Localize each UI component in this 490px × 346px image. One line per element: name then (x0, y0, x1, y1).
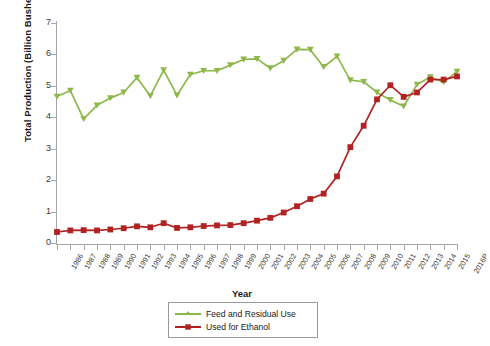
data-point-marker (374, 90, 381, 96)
x-tick-label: 1993 (163, 252, 179, 271)
legend-label-ethanol: Used for Ethanol (206, 322, 270, 332)
y-tick-label: 2 (25, 174, 51, 184)
data-point-marker (387, 82, 393, 88)
x-tick-label: 2016P (472, 252, 490, 275)
data-point-marker (454, 69, 461, 75)
x-tick-label: 1998 (229, 252, 245, 271)
data-point-marker (334, 173, 340, 179)
x-tick-label: 2011 (402, 252, 418, 270)
data-point-marker (280, 58, 287, 64)
x-tick-label: 2007 (349, 252, 365, 271)
x-tick-label: 2008 (363, 252, 379, 271)
x-tick-label: 2010 (389, 252, 405, 271)
x-tick (230, 245, 231, 250)
data-point-marker (174, 225, 180, 231)
data-point-marker (294, 47, 301, 53)
y-tick (51, 117, 56, 118)
series-ethanol (54, 74, 460, 235)
data-point-marker (67, 88, 74, 94)
x-tick-label: 1988 (96, 252, 112, 271)
x-tick (404, 245, 405, 250)
data-point-marker (321, 191, 327, 197)
x-tick-label: 2006 (336, 252, 352, 271)
x-tick-label: 1986 (69, 252, 85, 271)
data-point-marker (174, 92, 181, 98)
data-point-marker (307, 196, 313, 202)
data-point-marker (254, 56, 261, 62)
x-tick-label: 1994 (176, 252, 192, 271)
x-axis-title: Year (0, 288, 484, 299)
data-point-marker (81, 227, 87, 233)
x-tick (457, 245, 458, 250)
series-feed (54, 47, 461, 123)
data-point-marker (187, 224, 193, 230)
y-tick (51, 23, 56, 24)
data-point-marker (187, 72, 194, 78)
data-point-marker (107, 95, 114, 101)
x-tick-label: 2002 (283, 252, 299, 271)
data-point-marker (147, 93, 154, 99)
data-point-marker (441, 77, 447, 83)
x-tick (444, 245, 445, 250)
y-tick (51, 149, 56, 150)
x-tick-label: 2012 (416, 252, 432, 271)
x-tick (337, 245, 338, 250)
x-tick-label: 2014 (443, 252, 459, 271)
x-tick (164, 245, 165, 250)
x-tick (97, 245, 98, 250)
x-tick (244, 245, 245, 250)
series-line (57, 49, 457, 118)
data-point-marker (360, 79, 367, 85)
data-point-marker (214, 223, 220, 229)
legend-swatch-ethanol (175, 321, 201, 332)
data-point-marker (347, 144, 353, 150)
y-tick-label: 4 (25, 111, 51, 121)
x-tick-label: 1995 (189, 252, 205, 271)
data-point-marker (134, 75, 141, 81)
series-line (57, 76, 457, 232)
data-point-marker (241, 220, 247, 226)
data-point-marker (454, 74, 460, 80)
x-tick (364, 245, 365, 250)
chart-legend: Feed and Residual Use Used for Ethanol (168, 302, 318, 338)
y-tick-label: 3 (25, 143, 51, 153)
legend-swatch-feed (175, 308, 201, 319)
data-point-marker (440, 79, 447, 85)
x-tick (284, 245, 285, 250)
x-tick (390, 245, 391, 250)
data-point-marker (387, 97, 394, 103)
x-tick (124, 245, 125, 250)
y-tick (51, 86, 56, 87)
x-tick (177, 245, 178, 250)
x-tick (150, 245, 151, 250)
data-point-marker (254, 218, 260, 224)
data-point-marker (94, 228, 100, 234)
y-tick-label: 0 (25, 237, 51, 247)
x-tick-label: 1991 (136, 252, 152, 271)
data-point-marker (427, 77, 433, 83)
data-point-marker (227, 62, 234, 68)
legend-label-feed: Feed and Residual Use (206, 309, 296, 319)
legend-item-feed: Feed and Residual Use (175, 307, 311, 320)
x-tick-label: 1999 (243, 252, 259, 271)
data-point-marker (401, 94, 407, 100)
data-point-marker (374, 96, 380, 102)
data-point-marker (347, 77, 354, 83)
data-point-marker (240, 57, 247, 63)
x-tick-label: 2009 (376, 252, 392, 271)
data-point-marker (121, 225, 127, 231)
x-tick-label: 2005 (323, 252, 339, 271)
x-tick (257, 245, 258, 250)
x-tick (84, 245, 85, 250)
x-tick-label: 1987 (83, 252, 99, 271)
x-tick (430, 245, 431, 250)
x-tick (137, 245, 138, 250)
x-tick (377, 245, 378, 250)
data-point-marker (361, 123, 367, 129)
data-point-marker (267, 65, 274, 71)
data-point-marker (227, 222, 233, 228)
x-tick (70, 245, 71, 250)
y-tick (51, 212, 56, 213)
data-point-marker (54, 229, 60, 235)
